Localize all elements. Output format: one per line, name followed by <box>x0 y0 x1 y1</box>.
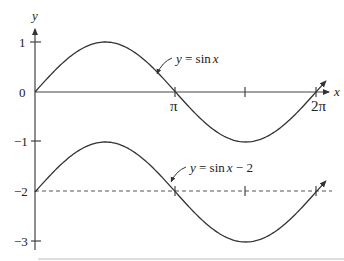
y-axis-label: y <box>30 8 38 23</box>
annotation-sin-minus-2-label: y = sinx − 2 <box>188 160 253 175</box>
y-tick-1: 1 <box>19 35 26 50</box>
y-tick-neg3: −3 <box>14 234 28 249</box>
x-axis-label: x <box>333 84 340 99</box>
annotation-sin-label: y = sinx <box>174 51 219 66</box>
y-tick-neg1: −1 <box>14 134 28 149</box>
x-tick-pi: π <box>170 98 178 114</box>
y-tick-neg2: −2 <box>14 184 28 199</box>
annotation-arrow-sin-minus-2 <box>171 167 186 182</box>
x-tick-2pi: 2π <box>311 98 327 114</box>
y-tick-0: 0 <box>19 85 26 100</box>
sine-graph: y x 1 0 −1 −2 −3 π 2π y = sinx y = sinx … <box>0 0 344 261</box>
curve-sin-x-minus-2 <box>35 142 326 242</box>
annotation-arrow-sin <box>157 58 172 74</box>
